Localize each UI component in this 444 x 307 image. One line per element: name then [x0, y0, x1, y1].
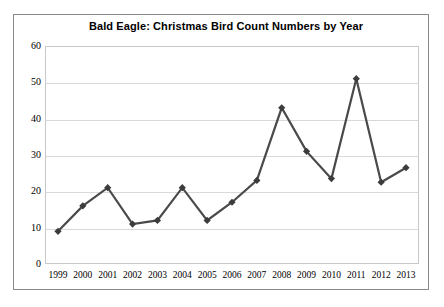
- data-point-2011: [353, 75, 360, 82]
- line-series-layer: [45, 46, 419, 264]
- series-line-bald-eagle: [58, 79, 406, 232]
- y-tick-label-0: 0: [17, 259, 41, 269]
- y-tick-label-50: 50: [17, 77, 41, 87]
- y-tick-label-10: 10: [17, 223, 41, 233]
- chart-card: Bald Eagle: Christmas Bird Count Numbers…: [13, 14, 429, 290]
- x-axis-tick-labels: 1999200020012002200320042005200620072008…: [45, 269, 419, 283]
- y-tick-label-20: 20: [17, 186, 41, 196]
- series-markers: [54, 75, 409, 235]
- plot-wrapper: 0102030405060 19992000200120022003200420…: [14, 15, 430, 291]
- x-tick-label-2013: 2013: [391, 269, 421, 281]
- y-axis-tick-labels: 0102030405060: [14, 46, 41, 264]
- y-tick-label-40: 40: [17, 114, 41, 124]
- y-tick-label-60: 60: [17, 41, 41, 51]
- y-tick-label-30: 30: [17, 150, 41, 160]
